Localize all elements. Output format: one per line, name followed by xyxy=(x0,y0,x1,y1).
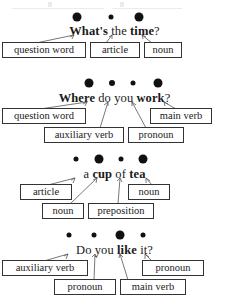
label-box-noun[interactable]: noun xyxy=(144,42,182,58)
label-box-question-word[interactable]: question word xyxy=(2,42,86,58)
label-box-pronoun[interactable]: pronoun xyxy=(128,127,184,143)
label-box-auxiliary-verb[interactable]: auxiliary verb xyxy=(2,260,88,276)
worksheet-page: What's the time? question word article n… xyxy=(0,0,229,297)
label-box-noun[interactable]: noun xyxy=(42,203,84,219)
label-box-question-word[interactable]: question word xyxy=(2,108,86,124)
label-box-noun[interactable]: noun xyxy=(128,184,170,200)
leader-lines-row-1 xyxy=(0,0,229,44)
label-box-article[interactable]: article xyxy=(20,184,72,200)
label-box-pronoun[interactable]: pronoun xyxy=(142,260,204,276)
label-box-auxiliary-verb[interactable]: auxiliary verb xyxy=(44,127,124,143)
label-box-article[interactable]: article xyxy=(90,42,140,58)
label-box-main-verb[interactable]: main verb xyxy=(120,279,186,295)
label-box-main-verb[interactable]: main verb xyxy=(150,108,212,124)
label-box-preposition[interactable]: preposition xyxy=(88,203,154,219)
label-box-pronoun[interactable]: pronoun xyxy=(54,279,116,295)
